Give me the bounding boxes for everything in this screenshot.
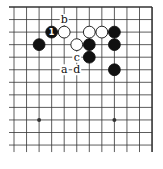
point-label-c: c [74, 51, 80, 64]
move-number: 1 [49, 28, 55, 37]
white-stone [96, 26, 108, 38]
white-stone [71, 39, 83, 51]
go-board: bcad1 [0, 0, 163, 169]
point-label-b: b [61, 13, 68, 26]
point-label-a: a [61, 63, 68, 76]
star-point [37, 118, 41, 122]
black-stone [109, 26, 121, 38]
black-stone [33, 39, 45, 51]
black-stone [109, 64, 121, 76]
point-label-d: d [73, 63, 80, 76]
white-stone [83, 26, 95, 38]
black-stone [109, 39, 121, 51]
star-point [112, 118, 116, 122]
black-stone [83, 39, 95, 51]
white-stone [58, 26, 70, 38]
black-stone [83, 51, 95, 63]
